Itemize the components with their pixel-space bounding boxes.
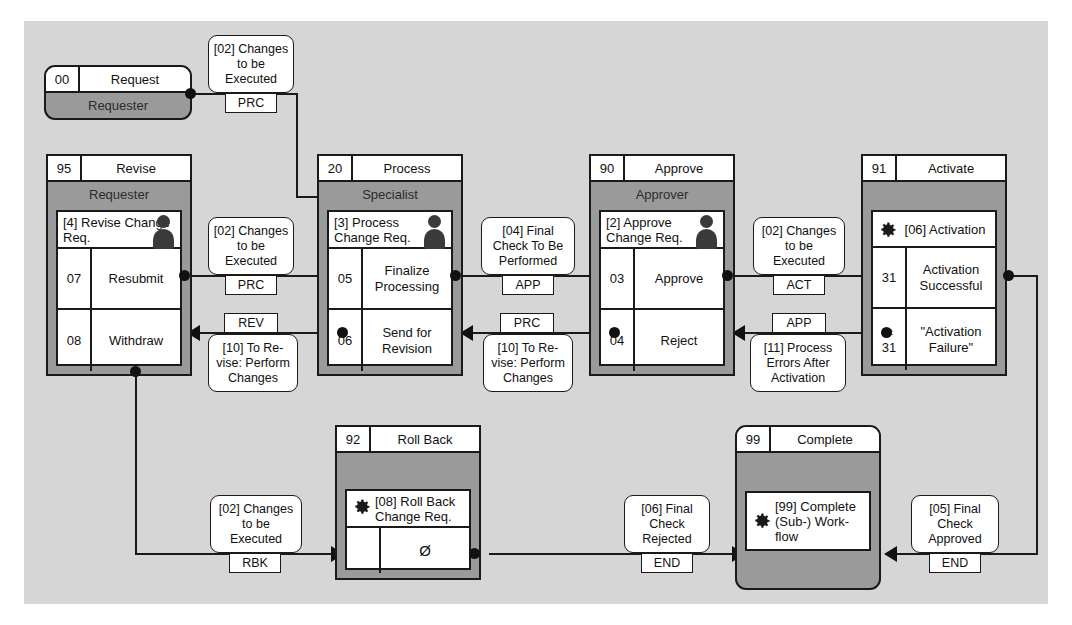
node-complete-number: 99 xyxy=(737,427,771,451)
connector-revise-to-rollback-v xyxy=(135,373,137,555)
table-row[interactable]: 03 Approve xyxy=(601,249,723,310)
node-approve-row0-label: Approve xyxy=(635,249,723,308)
node-revise-row1-code: 08 xyxy=(58,310,92,371)
node-rollback-header: 92 Roll Back xyxy=(337,427,479,453)
diagram-canvas: 00 Request Requester 95 Revise Requester… xyxy=(24,21,1048,604)
event-label-e10: [05] Final Check Approved xyxy=(911,495,999,553)
connector-dot-activation-successful xyxy=(1003,270,1014,281)
event-code-e10-text: END xyxy=(942,556,968,570)
node-rollback[interactable]: 92 Roll Back [08] Roll Back Change Req. … xyxy=(335,425,481,580)
node-request-number: 00 xyxy=(46,67,80,91)
node-request-role: Requester xyxy=(46,93,190,117)
event-label-e1: [02] Changes to be Executed xyxy=(208,35,294,93)
node-request[interactable]: 00 Request Requester xyxy=(44,65,192,120)
node-approve-task: [2] Approve Change Req. xyxy=(601,212,723,249)
event-label-e7-text: [11] Process Errors After Activation xyxy=(755,341,841,386)
connector-dot-finalize xyxy=(450,270,461,281)
node-rollback-number: 92 xyxy=(337,427,371,451)
node-process[interactable]: 20 Process Specialist [3] Process Change… xyxy=(317,154,463,376)
node-process-task: [3] Process Change Req. xyxy=(329,212,451,249)
event-label-e4-text: [02] Changes to be Executed xyxy=(758,224,840,269)
event-code-e9-text: END xyxy=(654,556,680,570)
node-revise-role: Requester xyxy=(48,182,190,206)
event-code-e4-text: ACT xyxy=(787,278,812,292)
table-row[interactable]: 05 Finalize Processing xyxy=(329,249,451,310)
event-label-e6: [10] To Re-vise: Perform Changes xyxy=(483,334,573,392)
node-revise-title: Revise xyxy=(82,156,190,180)
node-rollback-role xyxy=(337,453,479,477)
event-label-e10-text: [05] Final Check Approved xyxy=(916,502,994,547)
arrowhead-to-complete-right xyxy=(884,546,897,562)
node-activate[interactable]: 91 Activate [06] Activation 31 Activatio… xyxy=(861,154,1007,376)
node-rollback-row0-label: Ø xyxy=(381,528,469,573)
node-approve[interactable]: 90 Approve Approver [2] Approve Change R… xyxy=(589,154,735,376)
node-process-task-label: [3] Process Change Req. xyxy=(334,215,411,245)
event-label-e1-text: [02] Changes to be Executed xyxy=(213,42,289,87)
connector-dot-resubmit xyxy=(179,270,190,281)
node-complete-tasks: [99] Complete (Sub-) Work-flow xyxy=(745,491,871,551)
node-process-title: Process xyxy=(353,156,461,180)
node-rollback-task-label: [08] Roll Back Change Req. xyxy=(375,494,465,524)
node-approve-task-label: [2] Approve Change Req. xyxy=(606,215,683,245)
connector-dot-withdraw xyxy=(130,366,141,377)
gear-icon xyxy=(352,497,372,517)
event-label-e5-text: [10] To Re-vise: Perform Changes xyxy=(213,341,293,386)
table-row[interactable]: Ø xyxy=(347,528,469,573)
node-rollback-task: [08] Roll Back Change Req. xyxy=(347,491,469,528)
table-row[interactable]: 08 Withdraw xyxy=(58,310,180,371)
node-complete-task-label: [99] Complete (Sub-) Work-flow xyxy=(775,499,865,544)
node-process-row1-label: Send for Revision xyxy=(363,310,451,371)
event-label-e2-text: [02] Changes to be Executed xyxy=(213,224,289,269)
node-activate-tasks: [06] Activation 31 Activation Successful… xyxy=(871,210,997,366)
event-code-e10: END xyxy=(929,553,981,573)
node-complete[interactable]: 99 Complete [99] Complete (Sub-) Work-fl… xyxy=(735,425,881,590)
event-label-e8-text: [02] Changes to be Executed xyxy=(215,502,297,547)
event-code-e6-text: PRC xyxy=(514,316,540,330)
node-process-header: 20 Process xyxy=(319,156,461,182)
node-request-header: 00 Request xyxy=(46,67,190,93)
connector-activate-to-complete-v xyxy=(1036,275,1038,555)
node-process-role: Specialist xyxy=(319,182,461,206)
event-code-e8: RBK xyxy=(229,553,281,573)
event-code-e6: PRC xyxy=(500,313,554,333)
event-label-e7: [11] Process Errors After Activation xyxy=(750,334,846,392)
event-code-e7: APP xyxy=(772,313,826,333)
node-revise-tasks: [4] Revise Change Req. 07 Resubmit 08 Wi… xyxy=(56,210,182,366)
table-row[interactable]: 07 Resubmit xyxy=(58,249,180,310)
node-complete-title: Complete xyxy=(771,427,879,451)
table-row[interactable]: 06 Send for Revision xyxy=(329,310,451,371)
node-activate-title: Activate xyxy=(897,156,1005,180)
event-code-e4: ACT xyxy=(773,275,825,295)
event-code-e2: PRC xyxy=(225,275,277,295)
node-process-tasks: [3] Process Change Req. 05 Finalize Proc… xyxy=(327,210,453,366)
event-code-e1-text: PRC xyxy=(238,96,264,110)
node-activate-role xyxy=(863,182,1005,206)
table-row[interactable]: ≠ 31 "Activation Failure" xyxy=(873,309,995,370)
node-revise-header: 95 Revise xyxy=(48,156,190,182)
gear-icon xyxy=(878,220,898,240)
node-revise-row0-code: 07 xyxy=(58,249,92,308)
user-icon xyxy=(151,215,175,247)
node-revise-task: [4] Revise Change Req. xyxy=(58,212,180,249)
node-rollback-title: Roll Back xyxy=(371,427,479,451)
node-approve-row1-label: Reject xyxy=(635,310,723,371)
node-approve-number: 90 xyxy=(591,156,625,180)
event-label-e4: [02] Changes to be Executed xyxy=(753,217,845,275)
node-process-number: 20 xyxy=(319,156,353,180)
user-icon xyxy=(694,215,718,247)
node-revise-number: 95 xyxy=(48,156,82,180)
connector-dot-request xyxy=(185,88,196,99)
node-activate-row0-code: 31 xyxy=(873,248,907,307)
node-activate-row1-code: ≠ 31 xyxy=(873,309,907,370)
table-row[interactable]: 04 Reject xyxy=(601,310,723,371)
node-activate-header: 91 Activate xyxy=(863,156,1005,182)
event-code-e5-text: REV xyxy=(238,316,264,330)
node-revise[interactable]: 95 Revise Requester [4] Revise Change Re… xyxy=(46,154,192,376)
node-activate-row1-label: "Activation Failure" xyxy=(907,309,995,370)
node-process-row0-code: 05 xyxy=(329,249,363,308)
table-row[interactable]: 31 Activation Successful xyxy=(873,248,995,309)
event-code-e9: END xyxy=(641,553,693,573)
node-activate-task: [06] Activation xyxy=(873,212,995,248)
event-label-e9-text: [06] Final Check Rejected xyxy=(629,502,705,547)
node-complete-role xyxy=(737,453,879,477)
